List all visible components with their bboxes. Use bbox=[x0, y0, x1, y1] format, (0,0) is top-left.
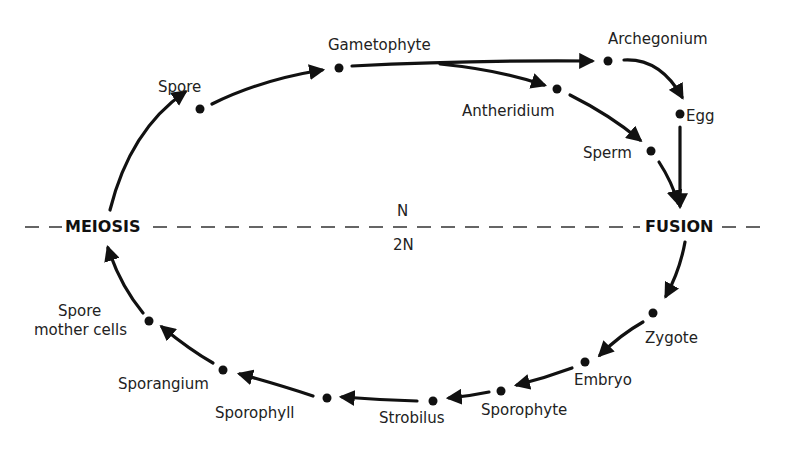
label-sporophyll: Sporophyll bbox=[215, 405, 294, 422]
arrow-gametophyte-to-archegonium bbox=[352, 61, 592, 66]
arrow-zygote-to-embryo bbox=[600, 322, 643, 355]
arrow-spore-to-gametophyte bbox=[212, 70, 322, 104]
event-fusion: FUSION bbox=[645, 218, 713, 235]
arrow-archegonium-to-egg bbox=[624, 60, 682, 97]
arrow-sporophyte-to-strobilus bbox=[449, 392, 489, 398]
arrow-sporangium-to-spore-mother-cells bbox=[162, 327, 213, 363]
label-gametophyte: Gametophyte bbox=[328, 37, 431, 54]
arrow-sporophyll-to-sporangium bbox=[240, 374, 313, 396]
label-archegonium: Archegonium bbox=[608, 31, 708, 48]
arrow-sperm-to-fusion bbox=[659, 162, 678, 203]
dot-sporangium bbox=[219, 366, 228, 375]
dot-spore bbox=[196, 105, 205, 114]
label-antheridium: Antheridium bbox=[462, 103, 555, 120]
label-spore-mother-cells-line2: mother cells bbox=[34, 322, 127, 339]
dot-antheridium bbox=[553, 85, 562, 94]
dot-zygote bbox=[649, 309, 658, 318]
arrow-embryo-to-sporophyte bbox=[517, 368, 572, 385]
dot-spore-mother-cells bbox=[145, 317, 154, 326]
label-diploid-2n: 2N bbox=[393, 237, 414, 254]
arrow-spore-mother-cells-to-meiosis bbox=[108, 248, 143, 313]
label-strobilus: Strobilus bbox=[379, 410, 445, 427]
arrow-strobilus-to-sporophyll bbox=[342, 397, 417, 401]
arrow-antheridium-to-sperm bbox=[570, 95, 640, 140]
dot-sporophyll bbox=[323, 394, 332, 403]
label-haploid-n: N bbox=[397, 203, 408, 220]
label-zygote: Zygote bbox=[645, 330, 698, 347]
label-sporangium: Sporangium bbox=[118, 376, 209, 393]
arrow-gametophyte-to-antheridium bbox=[440, 64, 544, 85]
dot-strobilus bbox=[429, 397, 438, 406]
label-sperm: Sperm bbox=[583, 145, 632, 162]
dot-sperm bbox=[647, 147, 656, 156]
label-sporophyte: Sporophyte bbox=[481, 402, 567, 419]
event-meiosis: MEIOSIS bbox=[65, 218, 140, 235]
arrow-meiosis-to-spore bbox=[110, 92, 185, 210]
dot-embryo bbox=[581, 358, 590, 367]
label-egg: Egg bbox=[686, 108, 715, 125]
dot-gametophyte bbox=[335, 64, 344, 73]
arrow-fusion-to-zygote bbox=[666, 242, 685, 296]
dot-sporophyte bbox=[497, 387, 506, 396]
dot-archegonium bbox=[604, 57, 613, 66]
label-embryo: Embryo bbox=[574, 372, 632, 389]
label-spore: Spore bbox=[158, 79, 201, 96]
dot-egg bbox=[676, 110, 685, 119]
label-spore-mother-cells-line1: Spore bbox=[58, 303, 101, 320]
